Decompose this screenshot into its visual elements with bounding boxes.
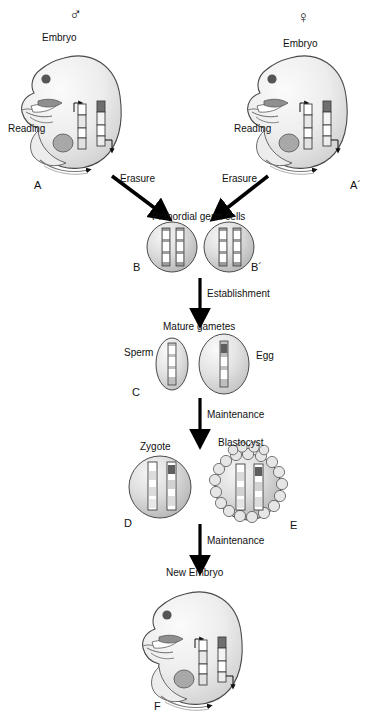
new-embryo-figure [143,592,243,710]
male-sex-symbol: ♂ [69,6,82,23]
female-embryo-reading-label: Reading [234,123,271,134]
panel-label-c: C [132,386,140,398]
egg-cell [199,334,249,394]
egg-label: Egg [256,350,274,361]
blastocyst-title: Blastocyst [218,437,264,448]
panel-label-f: F [154,700,161,712]
pgc-female-cell [204,222,254,272]
maintenance-label-2: Maintenance [207,535,264,546]
male-embryo-reading-label: Reading [8,123,45,134]
female-sex-symbol: ♀ [297,9,310,26]
panel-label-e: E [290,519,297,531]
pgc-title: Primordial germ cells [152,211,245,222]
erasure-label-female: Erasure [222,173,257,184]
panel-label-d: D [124,517,132,529]
establishment-label: Establishment [207,288,270,299]
sperm-label: Sperm [124,347,153,358]
male-embryo-title: Embryo [42,32,76,43]
imprinting-diagram: ♂ Embryo Reading A ♀ Embryo Reading A´ E… [0,0,375,724]
panel-label-b-prime: B´ [251,261,262,273]
female-embryo-figure [248,56,348,174]
panel-label-a: A [34,179,41,191]
panel-label-b: B [133,261,140,273]
diagram-graphics [0,0,375,724]
zygote-cell [129,456,191,518]
erasure-label-male: Erasure [120,173,155,184]
new-embryo-title: New Embryo [166,567,223,578]
sperm-cell [156,338,188,390]
gametes-title: Mature gametes [163,321,235,332]
panel-label-a-prime: A´ [350,179,361,191]
maintenance-label-1: Maintenance [207,409,264,420]
zygote-title: Zygote [140,441,171,452]
pgc-male-cell [147,222,197,272]
blastocyst-cell [209,442,287,523]
male-embryo-figure [22,56,122,174]
female-embryo-title: Embryo [283,38,317,49]
